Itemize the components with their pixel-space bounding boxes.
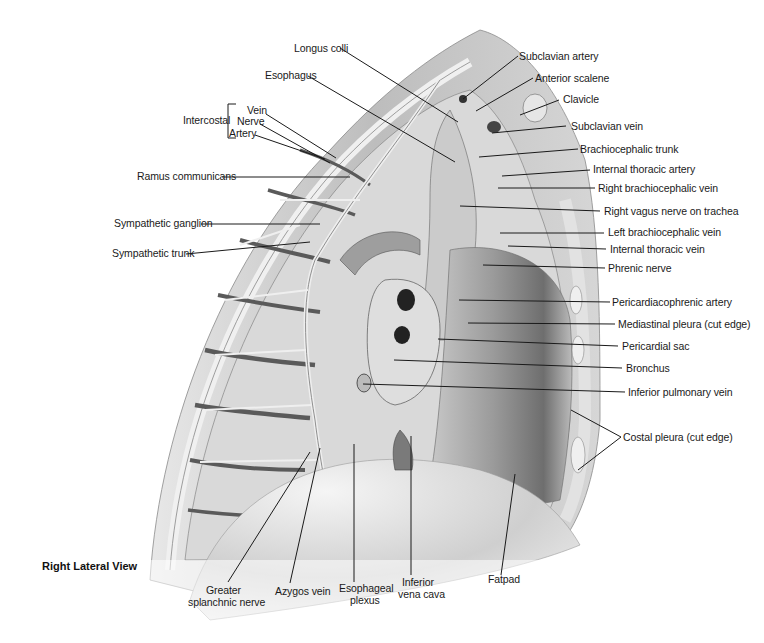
label-costal-pleura: Costal pleura (cut edge) <box>623 431 733 443</box>
bronchus-opening <box>397 289 415 311</box>
label-greater-splanchnic-line2: splanchnic nerve <box>188 596 265 608</box>
label-subclavian-artery: Subclavian artery <box>519 50 599 62</box>
label-ivc-line1: Inferior <box>402 576 434 588</box>
anatomy-figure: Longus colli Esophagus Intercostal Vein … <box>0 0 764 643</box>
label-right-vagus-nerve: Right vagus nerve on trachea <box>604 205 739 217</box>
label-intercostal-artery: Artery <box>229 127 257 139</box>
label-sympathetic-trunk: Sympathetic trunk <box>112 247 195 259</box>
inferior-pulmonary-vein-opening <box>357 374 371 392</box>
label-phrenic-nerve: Phrenic nerve <box>608 262 672 274</box>
label-pericardiacophrenic-artery: Pericardiacophrenic artery <box>612 296 733 308</box>
label-ramus-communicans: Ramus communicans <box>137 170 236 182</box>
label-longus-colli: Longus colli <box>294 42 348 54</box>
label-anterior-scalene: Anterior scalene <box>535 72 610 84</box>
label-azygos-vein: Azygos vein <box>275 585 331 597</box>
clavicle-section <box>523 94 547 122</box>
label-greater-splanchnic-line1: Greater <box>206 584 241 596</box>
label-intercostal-nerve: Nerve <box>237 115 265 127</box>
label-brachiocephalic-trunk: Brachiocephalic trunk <box>580 143 679 155</box>
label-ivc-line2: vena cava <box>398 588 445 600</box>
label-mediastinal-pleura: Mediastinal pleura (cut edge) <box>618 318 751 330</box>
label-esophagus: Esophagus <box>265 69 317 81</box>
label-internal-thoracic-vein: Internal thoracic vein <box>610 243 705 255</box>
label-pericardial-sac: Pericardial sac <box>622 340 689 352</box>
label-fatpad: Fatpad <box>488 573 520 585</box>
label-clavicle: Clavicle <box>563 93 599 105</box>
view-title: Right Lateral View <box>42 560 138 572</box>
label-intercostal: Intercostal <box>183 114 230 126</box>
label-subclavian-vein: Subclavian vein <box>571 120 643 132</box>
label-inferior-pulmonary-vein: Inferior pulmonary vein <box>628 386 733 398</box>
label-sympathetic-ganglion: Sympathetic ganglion <box>114 217 213 229</box>
label-bronchus: Bronchus <box>626 362 670 374</box>
label-right-brachiocephalic-vein: Right brachiocephalic vein <box>598 182 718 194</box>
subclavian-vein-section <box>487 121 501 133</box>
pulmonary-vessel-opening <box>394 326 410 344</box>
label-esophageal-plexus-line1: Esophageal <box>339 582 393 594</box>
label-internal-thoracic-artery: Internal thoracic artery <box>593 163 696 175</box>
label-esophageal-plexus-line2: plexus <box>350 594 380 606</box>
label-left-brachiocephalic-vein: Left brachiocephalic vein <box>608 226 721 238</box>
